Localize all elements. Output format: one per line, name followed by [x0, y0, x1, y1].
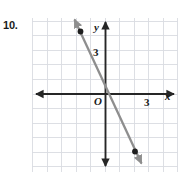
x-axis-label: x: [164, 90, 171, 102]
worksheet-problem-graph: 10.: [0, 0, 182, 175]
x-tick-label-3: 3: [144, 96, 150, 108]
y-tick-label-3: 3: [93, 46, 99, 58]
origin-label: O: [94, 95, 102, 107]
y-axis-label: y: [92, 21, 99, 33]
line-endpoint-dot-upper: [78, 29, 84, 35]
coordinate-plane-graph: y x O 3 3: [0, 0, 182, 175]
line-endpoint-dot-lower: [132, 149, 138, 155]
